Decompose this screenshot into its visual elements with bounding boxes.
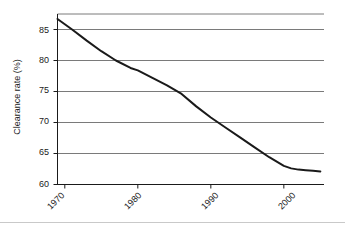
series-line-0 — [58, 19, 321, 172]
data-series-group — [58, 19, 321, 172]
gridlines — [58, 14, 325, 154]
plot-area — [0, 0, 345, 229]
chart-figure: Clearance rate (%) 60 65 70 75 80 85 197… — [0, 0, 345, 229]
axis-lines — [57, 14, 324, 185]
figure-bottom-rule — [0, 222, 345, 223]
axis-ticks — [54, 30, 284, 189]
